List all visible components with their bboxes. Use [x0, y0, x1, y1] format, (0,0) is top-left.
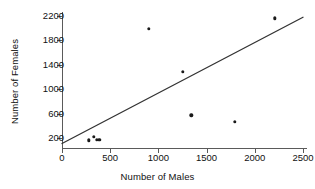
- y-tick-label: 1400: [24, 59, 64, 70]
- data-point: [233, 120, 236, 123]
- x-tick-label: 2500: [292, 152, 313, 163]
- y-tick-label: 1800: [24, 34, 64, 45]
- y-axis-title: Number of Females: [9, 22, 20, 142]
- x-tick-label: 1000: [148, 152, 169, 163]
- data-point: [147, 27, 150, 30]
- y-axis-line: [62, 12, 63, 148]
- y-tick-label: 1000: [24, 83, 64, 94]
- data-point: [181, 70, 184, 73]
- x-tick-label: 500: [102, 152, 118, 163]
- x-tick-label: 2000: [244, 152, 265, 163]
- x-axis-line: [62, 148, 307, 149]
- data-point: [97, 138, 100, 141]
- data-point: [87, 139, 90, 142]
- scatter-plot: 2006001000140018002200 05001000150020002…: [0, 0, 315, 189]
- data-point: [273, 17, 276, 20]
- y-tick-label: 600: [24, 108, 64, 119]
- y-tick-label: 2200: [24, 10, 64, 21]
- x-tick-label: 0: [59, 152, 64, 163]
- x-axis-title: Number of Males: [0, 171, 315, 182]
- y-tick-label: 200: [24, 132, 64, 143]
- data-point: [189, 114, 192, 117]
- x-tick-label: 1500: [196, 152, 217, 163]
